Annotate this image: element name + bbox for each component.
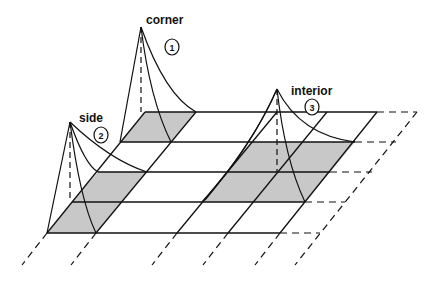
side-number: 2 (98, 131, 103, 141)
corner-number: 1 (169, 43, 174, 53)
label-side: side 2 (79, 111, 108, 143)
interior-number: 3 (309, 103, 314, 113)
label-corner: corner 1 (146, 13, 184, 55)
corner-label: corner (146, 13, 184, 27)
label-interior: interior 3 (291, 84, 333, 115)
side-label: side (79, 111, 103, 125)
interior-label: interior (291, 84, 333, 98)
basis-function-diagram: corner 1 side 2 interior 3 (0, 0, 437, 285)
